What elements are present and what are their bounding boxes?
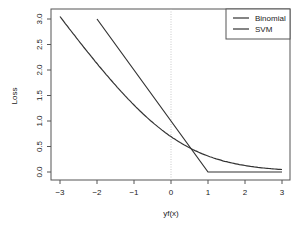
- y-tick-label: 0.0: [35, 166, 44, 178]
- x-tick-label: 1: [206, 188, 211, 197]
- x-tick-label: −1: [129, 188, 139, 197]
- y-axis-title: Loss: [10, 88, 19, 105]
- x-tick-label: 0: [169, 188, 174, 197]
- y-tick-label: 1.5: [35, 89, 44, 101]
- legend: BinomialSVM: [226, 9, 290, 39]
- x-tick-label: 3: [280, 188, 285, 197]
- y-tick-label: 2.0: [35, 64, 44, 76]
- legend-label: SVM: [255, 25, 273, 34]
- y-tick-label: 0.5: [35, 140, 44, 152]
- x-axis: −3−2−10123: [55, 180, 284, 197]
- x-tick-label: 2: [243, 188, 248, 197]
- x-tick-label: −3: [55, 188, 65, 197]
- y-tick-label: 2.5: [35, 38, 44, 50]
- y-axis: 0.00.51.01.52.02.53.0: [35, 13, 51, 178]
- y-tick-label: 3.0: [35, 13, 44, 25]
- y-tick-label: 1.0: [35, 115, 44, 127]
- x-axis-title: yf(x): [163, 209, 179, 218]
- loss-chart: −3−2−10123 0.00.51.01.52.02.53.0 yf(x) L…: [0, 0, 305, 230]
- legend-label: Binomial: [255, 14, 286, 23]
- x-tick-label: −2: [92, 188, 102, 197]
